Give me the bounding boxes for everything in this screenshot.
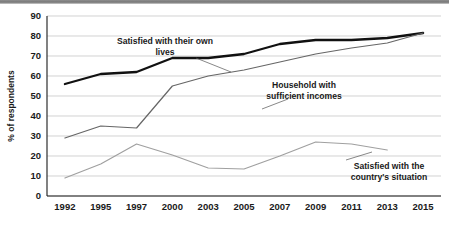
x-tick-label: 1997 [126,201,147,212]
y-tick-label: 90 [30,10,41,21]
annotation-line: Satisfied with the [354,161,425,171]
chart-figure: 0102030405060708090 19921995199720002003… [0,0,449,228]
series-line-2 [65,142,387,178]
annotation-line: Household with [272,80,336,90]
y-tick-label: 70 [30,50,41,61]
y-tick-label: 20 [30,150,41,161]
x-tick-label: 2009 [305,201,326,212]
y-tick-label: 0 [36,190,41,201]
leader-line-household [262,99,288,109]
x-tick-label: 2003 [198,201,219,212]
leader-line-own-lives [196,58,231,72]
x-tick-label: 2000 [162,201,183,212]
y-tick-label: 40 [30,110,41,121]
annot-household-income: Household withsufficient incomes [266,80,342,101]
x-tick-label: 1995 [90,201,112,212]
y-axis-title: % of respondents [6,70,16,142]
x-tick-label: 2011 [341,201,362,212]
line-chart-svg: 0102030405060708090 19921995199720002003… [0,0,449,228]
y-tick-label: 30 [30,130,41,141]
x-tick-label: 2013 [377,201,398,212]
y-tick-labels-group: 0102030405060708090 [30,10,41,201]
x-tick-label: 1992 [54,201,75,212]
y-tick-label: 60 [30,70,41,81]
y-tick-label: 10 [30,170,41,181]
annotations-group: Satisfied with their ownlivesHousehold w… [117,36,427,182]
y-tick-label: 50 [30,90,41,101]
annotation-line: sufficient incomes [266,91,342,101]
y-tick-label: 80 [30,30,41,41]
x-tick-labels-group: 1992199519972000200320052007200920112013… [54,201,434,212]
annot-country-situation: Satisfied with thecountry's situation [351,161,428,182]
x-tick-label: 2015 [413,201,435,212]
series-line-1 [65,33,423,138]
x-tick-label: 2005 [233,201,255,212]
annot-own-lives: Satisfied with their ownlives [117,36,213,57]
annotation-line: lives [155,47,174,57]
annotation-line: Satisfied with their own [117,36,213,46]
annotation-line: country's situation [351,172,428,182]
x-tick-label: 2007 [269,201,290,212]
